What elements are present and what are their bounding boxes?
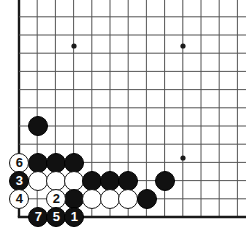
go-stone-black[interactable] bbox=[82, 171, 102, 191]
go-stone-black-move-7[interactable]: 7 bbox=[28, 207, 48, 227]
go-stone-white[interactable] bbox=[28, 171, 48, 191]
go-stone-white-move-2[interactable]: 2 bbox=[46, 189, 66, 209]
star-point bbox=[71, 43, 76, 48]
go-stone-black[interactable] bbox=[100, 171, 120, 191]
go-stone-black-move-5[interactable]: 5 bbox=[46, 207, 66, 227]
go-stone-black-move-1[interactable]: 1 bbox=[64, 207, 84, 227]
go-stone-black[interactable] bbox=[46, 153, 66, 173]
go-stone-black[interactable] bbox=[64, 189, 84, 209]
star-point bbox=[180, 155, 185, 160]
go-stone-black[interactable] bbox=[28, 116, 48, 136]
go-stone-white[interactable] bbox=[100, 189, 120, 209]
move-number-label: 7 bbox=[35, 210, 42, 223]
move-number-label: 4 bbox=[16, 192, 23, 205]
go-stone-white[interactable] bbox=[46, 171, 66, 191]
go-stone-black[interactable] bbox=[155, 171, 175, 191]
go-stone-white-move-4[interactable]: 4 bbox=[9, 189, 29, 209]
go-stone-white-move-6[interactable]: 6 bbox=[9, 153, 29, 173]
go-stone-black[interactable] bbox=[64, 153, 84, 173]
move-number-label: 2 bbox=[53, 192, 60, 205]
go-stone-black[interactable] bbox=[137, 189, 157, 209]
go-board-diagram: 6342751 bbox=[0, 0, 246, 244]
move-number-label: 5 bbox=[53, 210, 60, 223]
go-stone-white[interactable] bbox=[118, 189, 138, 209]
star-point bbox=[180, 43, 185, 48]
go-stone-black[interactable] bbox=[118, 171, 138, 191]
go-stone-black-move-3[interactable]: 3 bbox=[9, 171, 29, 191]
move-number-label: 6 bbox=[16, 156, 23, 169]
go-stone-black[interactable] bbox=[28, 153, 48, 173]
move-number-label: 3 bbox=[16, 174, 23, 187]
go-stone-white[interactable] bbox=[82, 189, 102, 209]
move-number-label: 1 bbox=[71, 210, 78, 223]
go-stone-white[interactable] bbox=[64, 171, 84, 191]
